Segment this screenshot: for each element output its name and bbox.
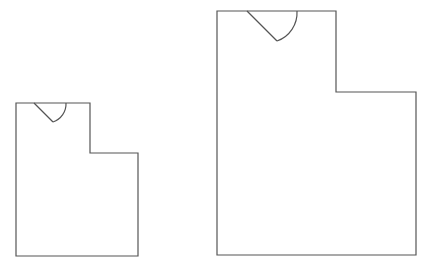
large-room [217, 11, 416, 255]
small-room-outline [16, 103, 138, 256]
small-room [16, 103, 138, 256]
large-room-outline [217, 11, 416, 255]
floor-plan-canvas [0, 0, 428, 272]
